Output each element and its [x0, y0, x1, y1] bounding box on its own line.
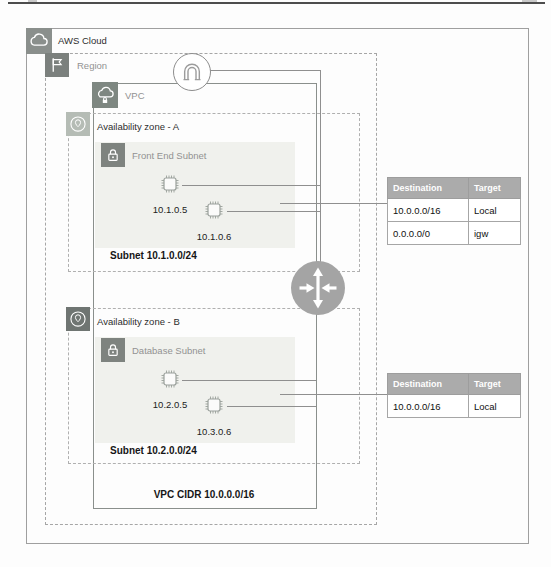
- table-row: 10.0.0.0/16 Local: [388, 395, 521, 418]
- instance-4-connector-line: [227, 406, 316, 407]
- igw-to-router-line-vertical: [320, 70, 321, 262]
- instance-ip-label: 10.1.0.6: [186, 231, 242, 242]
- availability-zone-a-pin-icon: [66, 112, 90, 136]
- subnet-b-cidr-label: Subnet 10.2.0.0/24: [110, 445, 197, 457]
- aws-cloud-label: AWS Cloud: [58, 35, 107, 47]
- front-end-subnet-lock-icon: [101, 143, 125, 167]
- region-flag-icon: [45, 53, 69, 77]
- instance-3-connector-line: [182, 380, 316, 381]
- ec2-instance-chip-icon: [202, 393, 226, 417]
- internet-gateway-icon: [173, 53, 211, 91]
- route-table-header-destination: Destination: [388, 374, 469, 395]
- table-row: 0.0.0.0/0 igw: [388, 222, 521, 245]
- route-table-2-connector-line: [280, 394, 388, 395]
- vpc-router-icon: [291, 261, 345, 315]
- availability-zone-a-label: Availability zone - A: [97, 121, 179, 133]
- front-end-subnet-label: Front End Subnet: [132, 150, 206, 162]
- route-table-2: Destination Target 10.0.0.0/16 Local: [387, 373, 521, 418]
- instance-ip-label: 10.2.0.5: [142, 399, 198, 410]
- region-label: Region: [77, 60, 107, 72]
- route-table-header-destination: Destination: [388, 178, 469, 199]
- route-destination-cell: 10.0.0.0/16: [388, 395, 469, 418]
- page-header-rule: [8, 2, 545, 4]
- instance-ip-label: 10.1.0.5: [142, 204, 198, 215]
- route-table-header-target: Target: [469, 178, 521, 199]
- database-subnet-lock-icon: [101, 338, 125, 362]
- route-destination-cell: 0.0.0.0/0: [388, 222, 469, 245]
- subnet-a-cidr-label: Subnet 10.1.0.0/24: [110, 250, 197, 262]
- route-target-cell: Local: [469, 199, 521, 222]
- ec2-instance-chip-icon: [158, 172, 182, 196]
- availability-zone-b-label: Availability zone - B: [97, 316, 180, 328]
- route-destination-cell: 10.0.0.0/16: [388, 199, 469, 222]
- igw-to-router-line-horizontal: [208, 70, 321, 71]
- vpc-cidr-label: VPC CIDR 10.0.0.0/16: [93, 489, 315, 501]
- route-table-1: Destination Target 10.0.0.0/16 Local 0.0…: [387, 177, 521, 245]
- instance-1-connector-line: [182, 185, 321, 186]
- book-figure-page: AWS Cloud Region VPC Avai: [0, 0, 551, 567]
- route-target-cell: Local: [469, 395, 521, 418]
- instance-ip-label: 10.3.0.6: [186, 426, 242, 437]
- vpc-label: VPC: [125, 90, 145, 102]
- ec2-instance-chip-icon: [158, 367, 182, 391]
- availability-zone-b-pin-icon: [66, 307, 90, 331]
- database-subnet-label: Database Subnet: [132, 345, 205, 357]
- vpc-cloud-lock-icon: [92, 82, 118, 108]
- ec2-instance-chip-icon: [202, 198, 226, 222]
- route-table-header-target: Target: [469, 374, 521, 395]
- instance-2-connector-line: [227, 211, 321, 212]
- route-table-1-connector-line: [280, 203, 388, 204]
- aws-cloud-icon: [26, 28, 52, 54]
- route-target-cell: igw: [469, 222, 521, 245]
- table-row: 10.0.0.0/16 Local: [388, 199, 521, 222]
